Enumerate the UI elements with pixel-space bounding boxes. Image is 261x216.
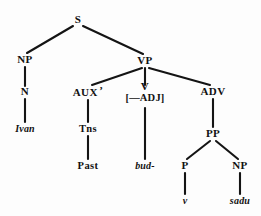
node-past: Past	[78, 160, 99, 171]
terminal-ivan: Ivan	[15, 124, 35, 135]
node-v-feature: [—ADJ]	[125, 92, 164, 104]
terminal-ivan-label: Ivan	[15, 123, 35, 134]
node-p: P	[181, 160, 188, 172]
terminal-v-label: v	[183, 195, 188, 206]
branch-s-to-vp	[83, 26, 143, 54]
node-np-subject-label: NP	[17, 53, 32, 65]
node-pp: PP	[206, 128, 220, 140]
node-past-label: Past	[78, 160, 99, 171]
node-n-label: N	[21, 85, 29, 97]
node-n: N	[21, 86, 29, 98]
branch-s-to-np_subject	[27, 26, 73, 53]
tree-branches	[0, 0, 261, 216]
node-pp-label: PP	[206, 127, 220, 139]
branch-pp-to-np_object	[216, 141, 238, 159]
terminal-sadu-label: sadu	[230, 195, 250, 206]
node-vp: VP	[137, 55, 152, 67]
node-adv: ADV	[200, 86, 225, 98]
node-np-object: NP	[232, 160, 247, 172]
terminal-sadu: sadu	[230, 196, 250, 207]
node-s-label: S	[75, 13, 82, 25]
node-tns-label: Tns	[79, 123, 97, 134]
branch-pp-to-p	[187, 141, 210, 159]
node-np-subject: NP	[17, 54, 32, 66]
node-adv-label: ADV	[200, 85, 225, 97]
terminal-bud-label: bud-	[135, 160, 155, 171]
node-v: V [—ADJ]	[125, 80, 164, 104]
terminal-bud: bud-	[135, 161, 155, 172]
node-s: S	[75, 14, 82, 26]
node-aux-label: AUX	[73, 86, 98, 98]
node-p-label: P	[181, 159, 188, 171]
node-aux-bar: AUX’	[73, 85, 104, 99]
node-tns: Tns	[79, 123, 97, 134]
node-np-object-label: NP	[232, 159, 247, 171]
syntax-tree-figure: S NP N Ivan VP AUX’ Tns Past V [—ADJ] bu…	[0, 0, 261, 216]
prime-mark: ’	[98, 84, 104, 96]
terminal-v: v	[183, 196, 188, 207]
node-vp-label: VP	[137, 54, 152, 66]
node-v-label: V	[141, 80, 149, 92]
